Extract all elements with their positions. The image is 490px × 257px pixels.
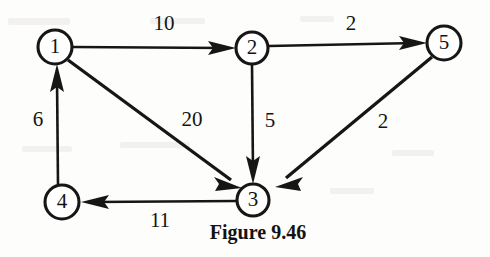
figure-container: 10 2 20 5 2 6 11 1 2 5 3 (0, 0, 490, 257)
node-5-label: 5 (439, 30, 450, 54)
edge-1-to-3 (68, 60, 242, 191)
edge-weight-5-3: 2 (378, 109, 389, 133)
edges-layer (50, 36, 432, 209)
edge-2-to-3-line (252, 64, 253, 172)
node-3[interactable]: 3 (237, 184, 269, 216)
edge-1-to-2-line (73, 47, 225, 48)
node-4[interactable]: 4 (45, 185, 79, 219)
edge-5-to-3-line (286, 57, 432, 178)
edge-weight-4-1: 6 (33, 107, 44, 131)
edge-2-to-3 (246, 64, 260, 184)
edge-weight-2-5: 2 (346, 11, 357, 35)
edge-weight-1-2: 10 (154, 11, 175, 35)
figure-caption: Figure 9.46 (210, 221, 306, 244)
edge-weight-1-3: 20 (182, 107, 203, 131)
edge-2-to-5-line (269, 43, 416, 46)
edge-3-to-4-line (93, 201, 237, 202)
edge-weight-3-4: 11 (150, 208, 170, 232)
node-1-label: 1 (50, 34, 61, 58)
edge-5-to-3 (275, 57, 432, 191)
edge-weight-2-3: 5 (265, 108, 276, 132)
edge-4-to-1-line (57, 78, 58, 185)
node-2[interactable]: 2 (236, 32, 268, 64)
graph-diagram: 10 2 20 5 2 6 11 1 2 5 3 (0, 0, 490, 257)
edge-1-to-3-line (68, 60, 231, 180)
edge-4-to-1 (50, 64, 64, 185)
node-5[interactable]: 5 (427, 26, 461, 60)
edge-5-to-3-arrowhead (275, 177, 303, 191)
nodes-layer: 1 2 5 3 4 (38, 26, 461, 219)
edge-2-to-5 (269, 36, 427, 50)
edge-1-to-2 (73, 41, 236, 55)
node-1[interactable]: 1 (38, 30, 72, 64)
node-2-label: 2 (247, 35, 258, 59)
node-4-label: 4 (57, 189, 68, 213)
node-3-label: 3 (248, 187, 259, 211)
